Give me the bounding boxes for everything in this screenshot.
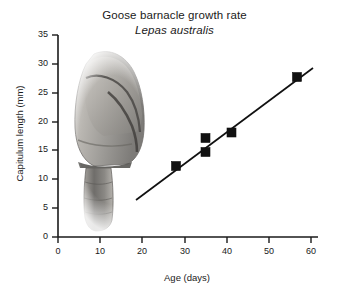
chart-figure: Goose barnacle growth rate Lepas austral…	[0, 0, 349, 298]
x-axis-ticks	[58, 237, 311, 243]
x-tick-label-10: 10	[88, 246, 112, 256]
y-tick-label-20: 20	[26, 116, 48, 126]
x-tick-label-0: 0	[46, 246, 70, 256]
y-tick-label-35: 35	[26, 29, 48, 39]
data-point	[227, 128, 236, 137]
y-tick-label-25: 25	[26, 87, 48, 97]
x-tick-label-60: 60	[299, 246, 323, 256]
y-tick-label-0: 0	[26, 231, 48, 241]
y-axis-ticks	[52, 35, 58, 237]
data-point	[172, 162, 181, 171]
regression-trendline	[136, 68, 313, 200]
data-point	[201, 148, 210, 157]
x-tick-label-50: 50	[257, 246, 281, 256]
x-tick-label-40: 40	[215, 246, 239, 256]
x-tick-label-20: 20	[130, 246, 154, 256]
y-tick-label-30: 30	[26, 58, 48, 68]
data-points	[172, 73, 302, 171]
y-tick-label-5: 5	[26, 202, 48, 212]
axis-lines	[58, 35, 318, 237]
y-tick-label-15: 15	[26, 144, 48, 154]
y-tick-label-10: 10	[26, 173, 48, 183]
data-point	[201, 134, 210, 143]
data-point	[293, 73, 302, 82]
x-tick-label-30: 30	[173, 246, 197, 256]
